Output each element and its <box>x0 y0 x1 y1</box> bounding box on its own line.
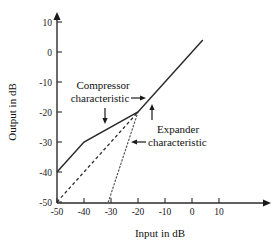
y-tick-label-4: -30 <box>39 138 52 148</box>
left-arrow-icon <box>131 139 146 144</box>
y-axis-ticks <box>57 22 62 202</box>
x-axis-title: Input in dB <box>135 227 185 239</box>
axes-group <box>53 12 271 207</box>
x-tick-label-4: -10 <box>159 207 172 217</box>
chart-canvas: 10 0 -10 -20 -30 -40 -50 -50 -40 -30 -20… <box>0 0 279 246</box>
chart-figure: 10 0 -10 -20 -30 -40 -50 -50 -40 -30 -20… <box>0 0 279 246</box>
x-axis-arrowhead <box>263 199 271 206</box>
compressor-annotation: Compressor characteristic <box>71 79 146 124</box>
right-arrow-icon <box>131 95 146 100</box>
x-tick-label-1: -40 <box>78 207 91 217</box>
expander-annotation: Expander characteristic <box>131 104 207 148</box>
y-tick-label-0: 10 <box>43 18 53 28</box>
series-linear-reference <box>57 112 138 202</box>
expander-label-line1: Expander <box>157 123 199 135</box>
y-tick-label-3: -20 <box>39 108 52 118</box>
expander-label-line2: characteristic <box>148 136 207 148</box>
y-tick-label-5: -40 <box>39 168 52 178</box>
compressor-label-line2: characteristic <box>71 92 130 104</box>
x-tick-label-0: -50 <box>51 207 64 217</box>
x-tick-label-2: -30 <box>105 207 118 217</box>
y-axis-title: Output in dB <box>6 83 18 140</box>
y-tick-label-6: -50 <box>39 198 52 208</box>
y-tick-label-1: 0 <box>47 48 52 58</box>
up-arrow-icon <box>149 104 154 120</box>
x-axis-ticks <box>57 198 219 203</box>
x-tick-label-6: 10 <box>214 207 224 217</box>
y-axis-tick-labels: 10 0 -10 -20 -30 -40 -50 <box>39 18 52 208</box>
data-series-group <box>57 40 203 202</box>
y-axis-arrowhead <box>53 12 60 20</box>
series-compressor-characteristic <box>57 40 203 172</box>
x-tick-label-5: 0 <box>190 207 195 217</box>
x-tick-label-3: -20 <box>132 207 145 217</box>
x-axis-tick-labels: -50 -40 -30 -20 -10 0 10 <box>51 207 224 217</box>
compressor-label-line1: Compressor <box>76 79 130 91</box>
y-tick-label-2: -10 <box>39 78 52 88</box>
down-arrow-icon <box>102 108 107 124</box>
